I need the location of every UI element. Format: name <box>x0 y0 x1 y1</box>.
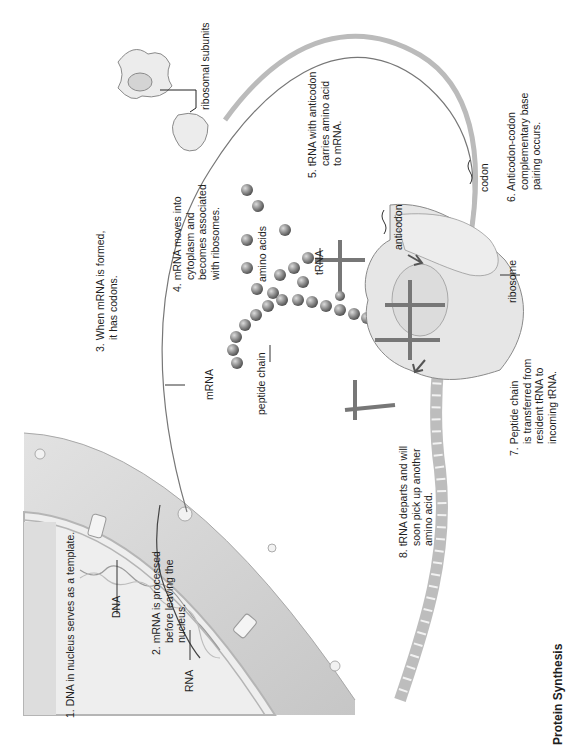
trna-incoming <box>302 240 365 301</box>
label-codon: codon <box>478 163 491 192</box>
amino-acids <box>241 184 309 299</box>
step-2-label: 2. mRNA is processed before leaving the … <box>150 551 188 655</box>
label-amino-acids: amino acids <box>256 226 269 282</box>
label-trna: tRNA <box>313 250 326 275</box>
step-3-label: 3. When mRNA is formed, it has codons. <box>94 231 119 352</box>
label-dna: DNA <box>110 596 123 618</box>
nuclear-pore-mrna-exit <box>178 507 192 521</box>
step-5-label: 5. tRNA with anticodon carries amino aci… <box>306 72 344 178</box>
label-peptide-chain: peptide chain <box>255 353 268 415</box>
label-ribosomal-subunits: ribosomal subunits <box>199 22 212 110</box>
label-ribosome: ribosome <box>506 260 519 303</box>
trna-departing <box>345 380 395 420</box>
step-1-label: 1. DNA in nucleus serves as a template. <box>64 532 77 718</box>
ribosomal-subunits <box>118 50 208 151</box>
step-8-label: 8. tRNA departs and will soon pick up an… <box>397 446 435 558</box>
figure-title: Protein Synthesis <box>552 644 565 745</box>
step-7-label: 7. Peptide chain is transferred from res… <box>508 359 558 456</box>
step-6-label: 6. Anticodon-codon complementary base pa… <box>505 93 543 202</box>
step-4-label: 4. mRNA moves into cytoplasm and becomes… <box>171 184 221 292</box>
ribosome <box>365 204 523 379</box>
label-mrna: mRNA <box>203 369 216 400</box>
label-rna: RNA <box>183 670 196 692</box>
label-anticodon: anticodon <box>392 204 405 250</box>
